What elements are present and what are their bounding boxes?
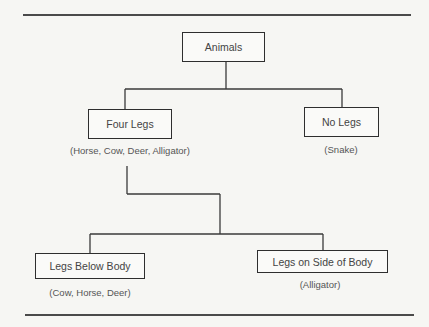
legs-below-body-examples: (Cow, Horse, Deer) <box>30 287 150 298</box>
node-legs-on-side-of-body: Legs on Side of Body <box>257 250 388 273</box>
node-no-legs: No Legs <box>304 107 379 137</box>
legs-on-side-of-body-examples: (Alligator) <box>280 279 360 290</box>
node-legs-below-body: Legs Below Body <box>35 253 145 279</box>
no-legs-examples: (Snake) <box>301 144 381 155</box>
node-animals: Animals <box>182 32 265 62</box>
node-four-legs: Four Legs <box>88 109 172 139</box>
four-legs-examples: (Horse, Cow, Deer, Alligator) <box>50 145 210 156</box>
node-legs-below-body-label: Legs Below Body <box>49 260 130 272</box>
node-four-legs-label: Four Legs <box>106 118 153 130</box>
node-legs-on-side-of-body-label: Legs on Side of Body <box>273 256 373 268</box>
node-no-legs-label: No Legs <box>322 116 361 128</box>
node-animals-label: Animals <box>205 41 242 53</box>
